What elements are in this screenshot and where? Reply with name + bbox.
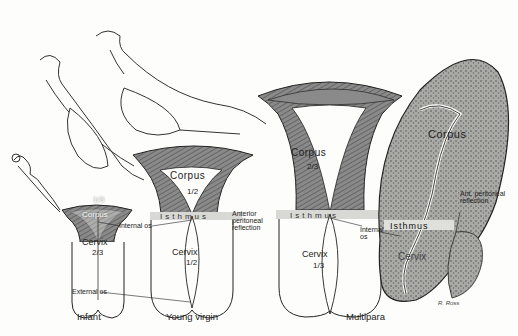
multipara-corpus-label: Corpus (291, 148, 326, 157)
anatomical-illustration (0, 0, 518, 336)
multipara-cervix-fraction: 1/3 (313, 262, 324, 269)
young-virgin-isthmus-label: Isthmus (160, 212, 209, 221)
young-virgin-cervix-label: Cervix (172, 248, 198, 257)
multipara-tube-ovary (96, 31, 266, 135)
young-virgin-corpus-label: Corpus (170, 171, 205, 180)
internal-os-label: Internal os (119, 222, 152, 229)
section-isthmus-label: Isthmus (390, 221, 429, 231)
infant-cervix-fraction: 2/3 (92, 249, 103, 256)
multipara-internal-os-label: Internal os (360, 226, 384, 240)
caption-multipara: Multipara (346, 312, 385, 321)
infant-fallopian-tube (12, 154, 60, 212)
multipara-isthmus-label: Isthmus (290, 211, 339, 220)
young-virgin-cervix-fraction: 1/2 (186, 259, 197, 266)
artist-signature: R. Ross (438, 300, 459, 306)
section-peritoneal-label: Ant. peritoneal reflection (460, 190, 512, 204)
infant-cervix-label: Cervix (82, 238, 108, 247)
section-corpus-label: Corpus (428, 130, 466, 139)
section-cervix-label: Cervix (398, 252, 426, 261)
infant-corpus-fraction: 1/3 (93, 196, 104, 203)
multipara-corpus-fraction: 2/3 (307, 163, 318, 170)
young-virgin-corpus-fraction: 1/2 (187, 188, 198, 195)
caption-young-virgin: Young virgin (166, 312, 218, 321)
infant-corpus-label: Corpus (82, 210, 108, 219)
anterior-peritoneal-reflection-label: Anterior peritoneal reflection (232, 210, 278, 231)
caption-infant: Infant (77, 312, 101, 321)
external-os-label: External os (72, 288, 107, 295)
multipara-cervix-label: Cervix (302, 250, 328, 259)
